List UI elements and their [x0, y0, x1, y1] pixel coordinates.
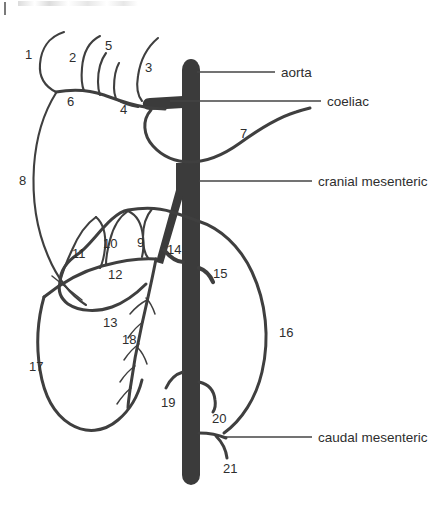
- label-number-14: 14: [167, 243, 181, 256]
- label-number-15: 15: [213, 267, 227, 280]
- label-number-4: 4: [120, 103, 127, 116]
- branch-7-vessel: [145, 108, 310, 162]
- label-number-5: 5: [105, 39, 112, 52]
- label-number-12: 12: [108, 268, 122, 281]
- branch-17-vessel: [38, 297, 142, 430]
- label-number-9: 9: [137, 236, 144, 249]
- label-caudal-mesenteric: caudal mesenteric: [318, 431, 428, 445]
- label-number-16: 16: [279, 326, 293, 339]
- label-number-17: 17: [29, 360, 43, 373]
- label-number-10: 10: [103, 237, 117, 250]
- label-number-7: 7: [240, 127, 247, 140]
- branch-15-vessel: [199, 268, 213, 282]
- label-number-6: 6: [67, 95, 74, 108]
- branch-20-vessel: [199, 382, 215, 412]
- caudal-mesenteric-vessel: [199, 433, 226, 438]
- label-number-1: 1: [25, 48, 32, 61]
- label-number-3: 3: [145, 61, 152, 74]
- label-number-21: 21: [223, 462, 237, 475]
- branch-16-vessel: [198, 221, 266, 433]
- branch-10b-vessel: [128, 211, 143, 257]
- label-number-11: 11: [72, 247, 86, 260]
- branch-19-vessel: [166, 372, 183, 388]
- anatomical-diagram: aorta coeliac cranial mesenteric caudal …: [0, 0, 442, 506]
- branch-1-vessel: [40, 32, 64, 92]
- label-coeliac: coeliac: [327, 95, 369, 109]
- label-number-8: 8: [19, 174, 26, 187]
- branch-13-vessel: [59, 282, 146, 310]
- label-number-13: 13: [103, 316, 117, 329]
- branch-8-vessel: [34, 93, 86, 305]
- branch-9-vessel: [143, 209, 152, 258]
- label-number-19: 19: [161, 396, 175, 409]
- label-aorta: aorta: [281, 66, 312, 80]
- label-number-2: 2: [69, 51, 76, 64]
- label-cranial-mesenteric: cranial mesenteric: [318, 175, 428, 189]
- label-number-18: 18: [122, 333, 136, 346]
- branch-5-vessel: [98, 53, 106, 95]
- branch-5b-vessel: [114, 63, 119, 99]
- label-number-20: 20: [212, 412, 226, 425]
- aorta-trunk: [182, 59, 200, 485]
